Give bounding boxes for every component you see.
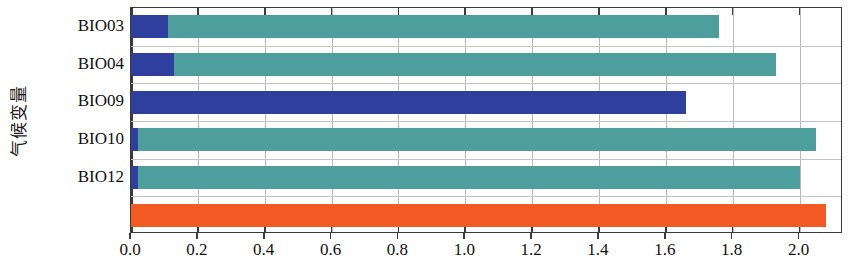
- bar-blue: [131, 53, 174, 76]
- y-axis-title: 气候变量: [0, 0, 34, 240]
- bar-chart-figure: 气候变量 BIO03BIO04BIO09BIO10BIO12 0.00.20.4…: [0, 0, 865, 269]
- x-gridline: [198, 8, 199, 232]
- x-tick-top: [264, 8, 266, 15]
- x-gridline: [465, 8, 466, 232]
- x-tick-mark: [597, 233, 599, 239]
- bar-blue: [131, 15, 168, 38]
- y-tick-label-bio03: BIO03: [30, 16, 124, 36]
- y-tick-label-bio12: BIO12: [30, 167, 124, 187]
- x-gridline: [800, 8, 801, 232]
- x-tick-top: [732, 8, 734, 15]
- bar-teal: [131, 166, 800, 189]
- x-tick-mark: [530, 233, 532, 239]
- x-tick-label: 1.0: [454, 240, 475, 260]
- row-separator: [131, 83, 841, 84]
- x-axis-tick-labels: 0.00.20.40.60.81.01.21.41.61.82.0: [130, 240, 842, 268]
- bar-teal: [131, 15, 719, 38]
- x-tick-top: [665, 8, 667, 15]
- x-tick-top: [464, 8, 466, 15]
- row-separator: [131, 159, 841, 160]
- x-tick-top: [398, 8, 400, 15]
- x-tick-top: [799, 8, 801, 15]
- x-tick-label: 1.8: [721, 240, 742, 260]
- row-separator: [131, 46, 841, 47]
- x-gridline: [332, 8, 333, 232]
- bar-teal: [131, 128, 816, 151]
- x-tick-label: 1.2: [521, 240, 542, 260]
- x-tick-label: 0.0: [119, 240, 140, 260]
- x-tick-label: 0.4: [253, 240, 274, 260]
- x-tick-mark: [798, 233, 800, 239]
- x-gridline: [265, 8, 266, 232]
- bar-teal: [131, 53, 776, 76]
- bar-blue: [131, 128, 138, 151]
- x-tick-top: [598, 8, 600, 15]
- bar-blue: [131, 91, 686, 114]
- x-tick-label: 2.0: [788, 240, 809, 260]
- x-gridline: [599, 8, 600, 232]
- x-tick-top: [531, 8, 533, 15]
- plot-area: [130, 7, 842, 233]
- bar-blue: [131, 166, 138, 189]
- row-separator: [131, 196, 841, 197]
- x-gridline: [532, 8, 533, 232]
- x-tick-mark: [330, 233, 332, 239]
- bar-orange: [131, 204, 826, 227]
- x-tick-mark: [397, 233, 399, 239]
- x-tick-mark: [463, 233, 465, 239]
- x-tick-mark: [664, 233, 666, 239]
- x-tick-label: 0.2: [186, 240, 207, 260]
- x-tick-label: 0.6: [320, 240, 341, 260]
- x-tick-label: 0.8: [387, 240, 408, 260]
- y-tick-label-bio09: BIO09: [30, 91, 124, 111]
- y-tick-label-bio04: BIO04: [30, 54, 124, 74]
- x-tick-top: [197, 8, 199, 15]
- x-gridline: [398, 8, 399, 232]
- x-tick-top: [331, 8, 333, 15]
- y-axis-tick-labels: BIO03BIO04BIO09BIO10BIO12: [34, 7, 130, 233]
- x-gridline: [733, 8, 734, 232]
- y-tick-label-bio10: BIO10: [30, 129, 124, 149]
- y-axis-title-text: 气候变量: [5, 84, 30, 156]
- x-tick-label: 1.6: [654, 240, 675, 260]
- x-tick-mark: [196, 233, 198, 239]
- x-gridline: [666, 8, 667, 232]
- x-tick-mark: [263, 233, 265, 239]
- x-tick-top: [130, 8, 132, 15]
- x-tick-label: 1.4: [587, 240, 608, 260]
- x-tick-mark: [129, 233, 131, 239]
- row-separator: [131, 121, 841, 122]
- x-tick-mark: [731, 233, 733, 239]
